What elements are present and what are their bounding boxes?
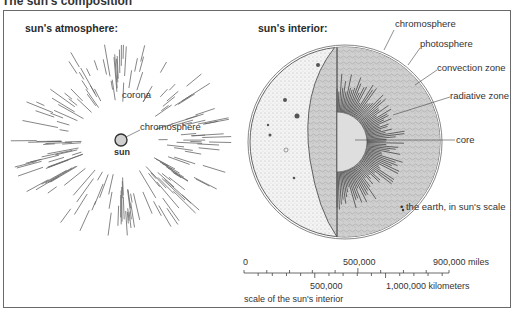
interior-heading: sun's interior:	[258, 22, 328, 34]
corona-label: corona	[122, 89, 151, 100]
layer-label-convection-zone: convection zone	[437, 62, 506, 73]
scale-miles-900k: 900,000 miles	[433, 257, 489, 267]
scale-miles-500k: 500,000	[343, 257, 376, 267]
sun-label: sun	[114, 147, 130, 157]
small-sun-icon	[115, 130, 140, 146]
earth-scale-note: • the earth, in sun's scale	[400, 201, 505, 212]
layer-label-core: core	[456, 134, 474, 145]
scale-caption: scale of the sun's interior	[244, 294, 343, 304]
scale-km-500k: 500,000	[310, 281, 343, 291]
scale-bar	[244, 268, 449, 278]
layer-label-radiative-zone: radiative zone	[450, 90, 509, 101]
layer-label-photosphere: photosphere	[420, 38, 473, 49]
atmosphere-heading: sun's atmosphere:	[25, 22, 118, 34]
scale-miles-0: 0	[243, 257, 248, 267]
layer-label-chromosphere: chromosphere	[395, 18, 456, 29]
chromosphere-label-small: chromosphere	[140, 121, 201, 132]
scale-km-1m: 1,000,000 kilometers	[386, 281, 470, 291]
